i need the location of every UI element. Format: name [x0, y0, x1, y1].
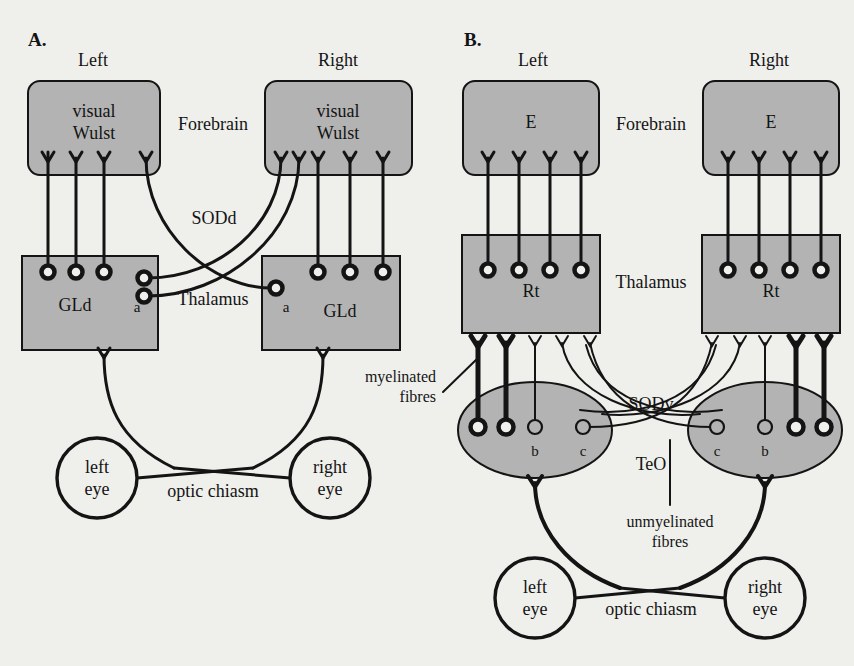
panel-b-right-rt-label: Rt — [762, 281, 779, 301]
panel-b-terminal-myelinated — [471, 420, 486, 435]
panel-b-terminal-myelinated — [817, 420, 832, 435]
panel-a-terminal — [344, 266, 357, 279]
panel-b-terminal — [753, 264, 766, 277]
panel-b-terminal — [784, 264, 797, 277]
panel-b-forebrain-label: Forebrain — [616, 114, 686, 134]
panel-a-left-eye-label-line1: left — [85, 457, 109, 477]
panel-b-terminal — [815, 264, 828, 277]
panel-a-left-hemisphere-label: Left — [78, 50, 108, 70]
panel-a-right-wulst-label-line2: Wulst — [317, 123, 359, 143]
panel-b: B. Left Right E E Forebrain Rt Rt Thalam… — [365, 29, 842, 638]
panel-a-forebrain-label: Forebrain — [178, 114, 248, 134]
panel-b-right-b-label: b — [761, 443, 769, 459]
panel-a-terminal — [70, 266, 83, 279]
panel-a-right-eye-label-line1: right — [313, 457, 347, 477]
panel-b-left-eye-label-line1: left — [523, 577, 547, 597]
panel-b-right-c-label: c — [714, 443, 721, 459]
panel-b-teo-label: TeO — [636, 454, 667, 474]
panel-a-left-gld-label: GLd — [59, 295, 92, 315]
panel-b-left-hemisphere-label: Left — [518, 50, 548, 70]
panel-a-sodd-label: SODd — [191, 208, 236, 228]
panel-a-terminal — [98, 266, 111, 279]
panel-a-label: A. — [28, 29, 46, 50]
panel-a-terminal — [312, 266, 325, 279]
panel-a-left-eye-label-line2: eye — [85, 479, 110, 499]
panel-a-terminal-a-left-upper — [138, 272, 151, 285]
panel-a-terminal — [377, 266, 390, 279]
panel-b-terminal-b-left — [528, 420, 542, 434]
panel-b-unmyelinated-label-line2: fibres — [652, 533, 688, 550]
panel-b-optic-chiasm-label: optic chiasm — [605, 599, 696, 619]
panel-a-right-terminal-a-label: a — [283, 299, 290, 315]
panel-b-terminal — [482, 264, 495, 277]
panel-b-terminal-c-right — [710, 420, 724, 434]
panel-a: A. Left Right visual Wulst visual Wulst … — [22, 29, 412, 518]
panel-b-right-eye-label-line1: right — [748, 577, 782, 597]
panel-b-thalamus-label: Thalamus — [616, 272, 687, 292]
panel-a-right-gld-label: GLd — [324, 301, 357, 321]
panel-b-label: B. — [464, 29, 481, 50]
panel-a-right-wulst-label-line1: visual — [317, 101, 360, 121]
panel-b-terminal — [544, 264, 557, 277]
panel-b-left-eye — [495, 558, 575, 638]
panel-b-right-e-label: E — [766, 112, 777, 132]
panel-b-terminal — [575, 264, 588, 277]
panel-b-terminal — [722, 264, 735, 277]
panel-b-unmyelinated-label-line1: unmyelinated — [626, 513, 713, 531]
panel-a-right-eye-label-line2: eye — [318, 479, 343, 499]
panel-b-terminal-myelinated — [499, 420, 514, 435]
panel-b-right-hemisphere-label: Right — [749, 50, 789, 70]
panel-b-terminal-b-right — [758, 420, 772, 434]
panel-b-sodv-label: SODv — [628, 394, 673, 414]
panel-b-right-eye — [725, 558, 805, 638]
panel-b-left-rt-label: Rt — [522, 281, 539, 301]
panel-b-terminal — [513, 264, 526, 277]
panel-a-optic-chiasm-label: optic chiasm — [167, 481, 258, 501]
panel-a-terminal-a-right — [270, 282, 283, 295]
panel-b-left-b-label: b — [531, 443, 539, 459]
panel-b-left-e-label: E — [526, 112, 537, 132]
figure-root: .reg{fill:#b3b3b3;stroke:#141414;stroke-… — [0, 0, 854, 666]
panel-a-right-hemisphere-label: Right — [318, 50, 358, 70]
panel-a-terminal — [42, 266, 55, 279]
panel-b-left-eye-label-line2: eye — [523, 599, 548, 619]
panel-b-myelinated-label-line1: myelinated — [365, 368, 436, 386]
panel-b-left-c-label: c — [580, 443, 587, 459]
panel-a-left-eye — [57, 438, 137, 518]
panel-b-myelinated-annotation: myelinated fibres — [365, 357, 479, 405]
panel-b-myelinated-label-line2: fibres — [400, 388, 436, 405]
diagram-canvas: .reg{fill:#b3b3b3;stroke:#141414;stroke-… — [0, 0, 854, 666]
panel-a-left-wulst-label-line1: visual — [73, 101, 116, 121]
panel-b-right-eye-label-line2: eye — [753, 599, 778, 619]
panel-b-terminal-c-left — [576, 420, 590, 434]
panel-b-terminal-myelinated — [789, 420, 804, 435]
panel-a-right-eye — [290, 438, 370, 518]
panel-a-terminal-a-left-lower — [138, 290, 151, 303]
panel-a-left-wulst-label-line2: Wulst — [73, 123, 115, 143]
